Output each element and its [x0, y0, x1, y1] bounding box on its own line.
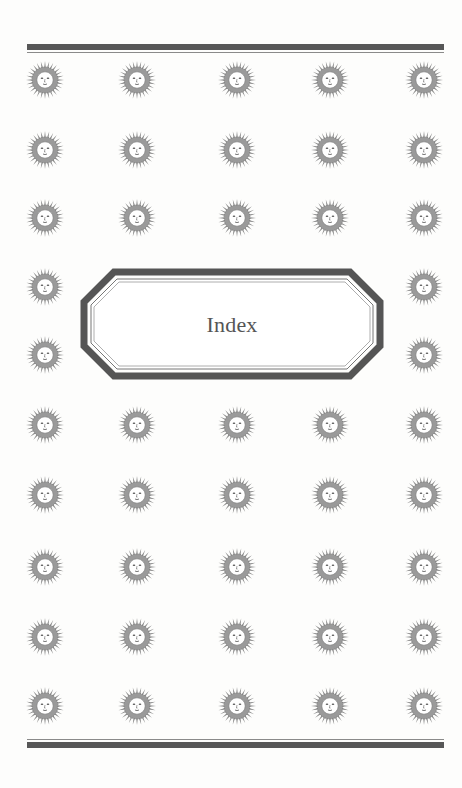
sun-face-icon [117, 60, 157, 100]
index-divider-page: Index [0, 0, 462, 788]
sun-face-icon [310, 60, 350, 100]
sun-face-icon [217, 405, 257, 445]
sun-face-icon [404, 130, 444, 170]
sun-face-icon [404, 198, 444, 238]
sun-face-icon [117, 405, 157, 445]
sun-face-icon [117, 475, 157, 515]
sun-face-icon [310, 405, 350, 445]
sun-face-icon [117, 686, 157, 726]
bottom-rule [27, 739, 444, 748]
sun-face-icon [404, 267, 444, 307]
sun-face-icon [25, 267, 65, 307]
sun-face-icon [217, 60, 257, 100]
sun-face-icon [217, 686, 257, 726]
sun-face-icon [117, 617, 157, 657]
sun-face-icon [25, 60, 65, 100]
sun-face-icon [404, 617, 444, 657]
sun-face-icon [217, 547, 257, 587]
sun-face-icon [117, 198, 157, 238]
sun-face-icon [25, 547, 65, 587]
top-rule [27, 44, 444, 53]
sun-face-icon [404, 686, 444, 726]
sun-face-icon [217, 130, 257, 170]
sun-face-icon [25, 130, 65, 170]
sun-face-icon [310, 686, 350, 726]
sun-face-icon [25, 335, 65, 375]
sun-face-icon [310, 130, 350, 170]
sun-face-icon [117, 547, 157, 587]
sun-face-icon [25, 475, 65, 515]
sun-face-icon [310, 547, 350, 587]
sun-face-icon [217, 617, 257, 657]
sun-face-icon [25, 198, 65, 238]
sun-face-icon [404, 475, 444, 515]
sun-face-icon [310, 475, 350, 515]
sun-face-icon [404, 335, 444, 375]
sun-face-icon [310, 198, 350, 238]
sun-face-icon [310, 617, 350, 657]
sun-face-icon [25, 686, 65, 726]
sun-face-icon [404, 60, 444, 100]
sun-face-icon [404, 405, 444, 445]
page-title: Index [80, 268, 384, 380]
sun-face-icon [404, 547, 444, 587]
sun-face-icon [217, 475, 257, 515]
sun-face-icon [217, 198, 257, 238]
title-frame: Index [80, 268, 384, 380]
sun-face-icon [25, 617, 65, 657]
sun-face-icon [117, 130, 157, 170]
sun-face-icon [25, 405, 65, 445]
